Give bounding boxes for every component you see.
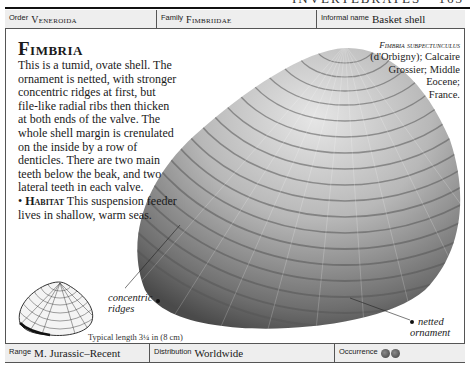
informal-name-value: Basket shell (372, 13, 425, 25)
shell-sketch-illustration (16, 279, 96, 337)
typical-length-caption: Typical length 3¼ in (8 cm) (88, 332, 183, 342)
pointer-dot-icon (156, 299, 160, 303)
annotation-line: ridges (108, 303, 152, 314)
annotation-line: ornament (410, 327, 450, 338)
top-rule (5, 7, 470, 9)
bullet-icon: • (18, 194, 22, 208)
range-cell: Range M. Jurassic–Recent (5, 344, 150, 362)
habitat-heading: Habitat (25, 194, 64, 208)
running-head: INVERTEBRATES 163 (292, 0, 464, 7)
running-head-section: INVERTEBRATES (292, 0, 421, 6)
informal-name-label: Informal name (321, 13, 369, 22)
occurrence-cell: Occurrence (335, 344, 465, 362)
specimen-caption: Fimbria subpectunculus (d'Orbigny); Calc… (370, 39, 460, 101)
description-text: This is a tumid, ovate shell. The orname… (18, 59, 178, 222)
annotation-line: netted (410, 316, 450, 327)
family-label: Family (161, 13, 183, 22)
page-number: 163 (439, 0, 465, 6)
netted-ornament-label: netted ornament (410, 316, 450, 338)
occurrence-dot-icon (391, 349, 400, 358)
description-paragraph: This is a tumid, ovate shell. The orname… (18, 59, 178, 195)
order-value: Veneroida (31, 14, 77, 25)
pointer-dot-icon (410, 320, 414, 324)
details-footer: Range M. Jurassic–Recent Distribution Wo… (5, 343, 465, 363)
range-label: Range (9, 347, 31, 356)
specimen-caption-line: France. (370, 89, 460, 101)
family-value: Fimbriidae (186, 14, 232, 25)
occurrence-label: Occurrence (339, 347, 378, 356)
order-cell: Order Veneroida (5, 10, 157, 28)
habitat-paragraph: • Habitat This suspension feeder lives i… (18, 195, 178, 222)
species-name: Fimbria subpectunculus (370, 39, 460, 51)
distribution-label: Distribution (154, 347, 192, 356)
page-title: Fimbria (18, 38, 83, 60)
family-cell: Family Fimbriidae (157, 10, 317, 28)
distribution-cell: Distribution Worldwide (150, 344, 335, 362)
informal-name-cell: Informal name Basket shell (317, 10, 465, 28)
annotation-line: concentric (108, 292, 152, 303)
specimen-caption-line: Eocene; (370, 76, 460, 88)
concentric-ridges-label: concentric ridges (108, 292, 152, 314)
distribution-value: Worldwide (195, 347, 244, 359)
range-value: M. Jurassic–Recent (34, 347, 120, 359)
order-label: Order (9, 13, 28, 22)
classification-header: Order Veneroida Family Fimbriidae Inform… (5, 10, 465, 29)
occurrence-dot-icon (381, 349, 390, 358)
specimen-caption-line: Grossier; Middle (370, 64, 460, 76)
specimen-caption-line: (d'Orbigny); Calcaire (370, 51, 460, 63)
